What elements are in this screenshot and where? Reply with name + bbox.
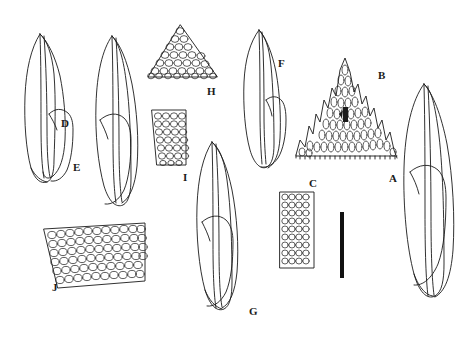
figure-label-g: G	[249, 306, 258, 317]
figure-label-a: A	[389, 173, 397, 184]
figure-g-leaf	[197, 142, 238, 310]
figure-label-f: F	[278, 58, 285, 69]
figure-label-j: J	[52, 282, 58, 293]
figure-label-d: D	[61, 118, 69, 129]
figure-i-cell-patch	[152, 110, 189, 166]
botanical-plate: A B C D E F G H I J	[0, 0, 467, 338]
figure-h-cell-patch	[148, 25, 217, 79]
figure-a-leaf	[404, 84, 454, 297]
figure-label-h: H	[207, 86, 216, 97]
figure-label-e: E	[73, 162, 81, 173]
figure-label-i: I	[183, 172, 187, 183]
figure-e-leaf	[96, 36, 138, 206]
figure-f-leaf	[244, 30, 286, 168]
figure-c-cell-strip	[280, 192, 314, 268]
figure-label-b: B	[378, 70, 386, 81]
figure-d-leaf	[25, 34, 73, 182]
figure-j-cell-patch	[44, 223, 147, 288]
plate-drawing	[0, 0, 467, 338]
figure-label-c: C	[309, 178, 317, 189]
scale-bar	[340, 212, 344, 278]
